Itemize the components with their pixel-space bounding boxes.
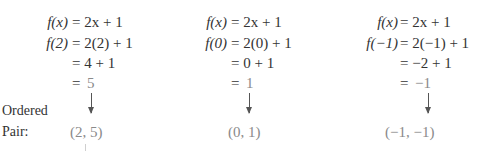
lhs-fx: f(x) bbox=[338, 13, 398, 31]
rhs-substitution: = 2(0) + 1 bbox=[231, 34, 292, 52]
rhs-definition: = 2x + 1 bbox=[400, 13, 451, 31]
rhs-simplify: = 4 + 1 bbox=[72, 54, 115, 72]
rhs-simplify: = −2 + 1 bbox=[400, 54, 452, 72]
rhs-definition: = 2x + 1 bbox=[72, 13, 123, 31]
down-arrow-icon bbox=[249, 93, 250, 113]
down-arrow-icon bbox=[428, 93, 429, 113]
pair-label: Pair: bbox=[2, 123, 28, 141]
down-arrow-icon bbox=[91, 93, 92, 113]
rhs-equals: = bbox=[400, 74, 408, 92]
rhs-simplify: = 0 + 1 bbox=[231, 54, 274, 72]
result-value: 1 bbox=[246, 74, 254, 92]
rhs-definition: = 2x + 1 bbox=[231, 13, 282, 31]
ordered-pair: (2, 5) bbox=[70, 123, 103, 141]
ordered-pair: (0, 1) bbox=[228, 123, 261, 141]
rhs-equals: = bbox=[72, 74, 80, 92]
ordered-label: Ordered bbox=[2, 102, 48, 120]
lhs-f-of-0: f(0) bbox=[167, 34, 227, 52]
lhs-fx: f(x) bbox=[8, 13, 68, 31]
lhs-fx: f(x) bbox=[167, 13, 227, 31]
ordered-pair: (−1, −1) bbox=[385, 123, 434, 141]
result-value: −1 bbox=[415, 74, 431, 92]
tick-mark bbox=[85, 144, 86, 151]
lhs-f-of-2: f(2) bbox=[8, 34, 68, 52]
rhs-substitution: = 2(−1) + 1 bbox=[400, 34, 469, 52]
rhs-substitution: = 2(2) + 1 bbox=[72, 34, 133, 52]
lhs-f-of-neg1: f(−1) bbox=[338, 34, 398, 52]
result-value: 5 bbox=[87, 74, 95, 92]
rhs-equals: = bbox=[231, 74, 239, 92]
